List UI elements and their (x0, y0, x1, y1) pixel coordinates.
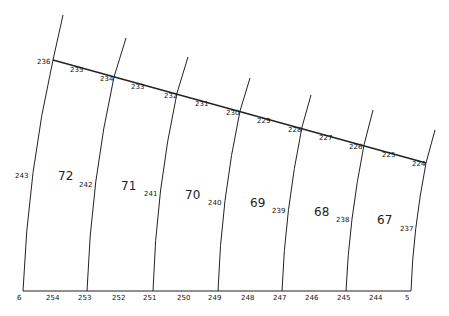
subdivision-plat: 2362352342332322312302292282272262252242… (0, 0, 449, 316)
rear-point-label: 254 (46, 294, 60, 302)
front-point-label: 224 (412, 160, 426, 168)
rear-point-label: 244 (369, 294, 383, 302)
rear-point-label: 245 (337, 294, 350, 302)
lot-number: 68 (314, 205, 329, 219)
front-point-label: 232 (164, 92, 177, 100)
rear-point-label: 252 (112, 294, 125, 302)
side-point-label: 239 (272, 207, 285, 215)
lot-number: 72 (58, 169, 73, 183)
lot-divider-line (346, 110, 373, 291)
lot-divider-line (411, 130, 435, 291)
lot-number: 70 (185, 188, 200, 202)
rear-point-label: 5 (405, 294, 409, 302)
front-point-label: 231 (195, 100, 208, 108)
side-point-label: 238 (336, 216, 349, 224)
rear-point-label: 253 (78, 294, 91, 302)
rear-point-label: 6 (17, 294, 22, 302)
side-point-label: 242 (79, 181, 92, 189)
rear-point-label: 248 (241, 294, 254, 302)
lot-boundary-lines (23, 60, 426, 291)
lot-number: 71 (121, 179, 136, 193)
lot-divider-line (23, 15, 63, 291)
front-point-label: 227 (319, 134, 332, 142)
side-point-label: 241 (144, 190, 157, 198)
lot-divider-lines (23, 15, 435, 291)
lot-number: 67 (377, 213, 392, 227)
front-point-label: 236 (37, 58, 51, 66)
rear-point-label: 246 (305, 294, 319, 302)
front-point-label: 230 (226, 109, 239, 117)
rear-point-label: 247 (273, 294, 286, 302)
point-labels: 2362352342332322312302292282272262252242… (15, 58, 426, 302)
front-point-label: 229 (257, 117, 270, 125)
front-point-label: 233 (131, 83, 144, 91)
front-point-label: 234 (100, 75, 114, 83)
rear-point-label: 249 (208, 294, 221, 302)
side-point-label: 240 (208, 199, 221, 207)
side-point-label: 243 (15, 172, 28, 180)
rear-point-label: 251 (143, 294, 156, 302)
rear-point-label: 250 (177, 294, 190, 302)
lot-number: 69 (250, 196, 265, 210)
front-point-label: 225 (382, 151, 395, 159)
side-point-label: 237 (400, 225, 413, 233)
front-point-label: 228 (288, 126, 301, 134)
front-point-label: 235 (70, 66, 83, 74)
front-point-label: 226 (349, 143, 363, 151)
